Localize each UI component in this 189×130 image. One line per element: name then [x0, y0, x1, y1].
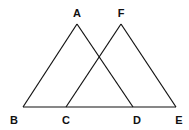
point-label-B: B: [10, 114, 18, 126]
point-label-D: D: [133, 114, 141, 126]
segment-FE: [121, 24, 176, 107]
triangle-diagram: AFBCDE: [0, 0, 189, 130]
point-label-F: F: [118, 7, 125, 19]
point-label-C: C: [62, 114, 70, 126]
point-label-E: E: [175, 114, 182, 126]
segment-FC: [66, 24, 121, 107]
point-labels: AFBCDE: [10, 7, 183, 126]
segment-AB: [23, 24, 77, 107]
segment-AD: [77, 24, 133, 107]
point-label-A: A: [73, 7, 81, 19]
segments: [23, 24, 176, 107]
